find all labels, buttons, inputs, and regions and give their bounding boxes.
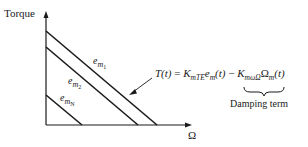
curve-label-emN: emN — [60, 93, 75, 107]
curve-em1-line — [46, 31, 157, 125]
curve-label-em2: em2 — [68, 76, 81, 90]
damping-underbrace — [244, 87, 284, 96]
torque-equation: T(t) = KmTEem(t) − KmωΩΩm(t) — [155, 68, 285, 82]
curve-em2-line — [46, 47, 138, 125]
damping-term-label: Damping term — [230, 99, 288, 109]
pointer-arrow-line — [133, 78, 152, 92]
curve-label-em1: em1 — [93, 56, 106, 70]
y-axis-arrowhead-icon — [44, 11, 49, 18]
y-axis-label: Torque — [4, 8, 35, 19]
x-axis-label: Ω — [188, 130, 196, 141]
x-axis-arrowhead-icon — [185, 123, 192, 128]
